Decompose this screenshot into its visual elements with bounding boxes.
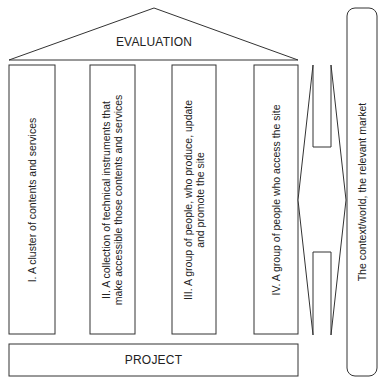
roof-label: EVALUATION [100, 34, 208, 50]
pillar-3-line-2: and promote the site [194, 99, 206, 299]
pillar-2-line-2: make accessible those contents and servi… [113, 94, 125, 305]
context-panel: The context/world, the relevant market [347, 8, 377, 376]
pillar-2: II. A collection of technical instrument… [90, 65, 135, 334]
pillar-4: IV. A group of people who access the sit… [254, 65, 298, 334]
context-label: The context/world, the relevant market [356, 103, 368, 282]
pillar-3-line-1: III. A group of people, who produce, upd… [182, 99, 194, 299]
pillar-2-label: II. A collection of technical instrument… [101, 94, 125, 305]
pillar-3: III. A group of people, who produce, upd… [172, 65, 216, 334]
pillar-1: I. A cluster of contents and services [9, 65, 55, 334]
pillar-2-line-1: II. A collection of technical instrument… [101, 94, 113, 305]
pillar-3-label: III. A group of people, who produce, upd… [182, 99, 206, 299]
foundation-label: PROJECT [9, 344, 298, 376]
double-arrow-icon [298, 65, 346, 335]
pillar-4-label: IV. A group of people who access the sit… [270, 104, 282, 295]
pillar-1-label: I. A cluster of contents and services [26, 117, 38, 282]
